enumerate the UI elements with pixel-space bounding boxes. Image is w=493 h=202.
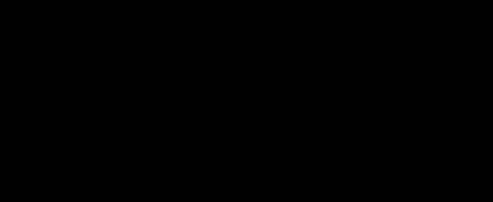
background <box>0 0 493 202</box>
figure-illustration <box>0 0 493 202</box>
figure-canvas <box>0 0 493 202</box>
